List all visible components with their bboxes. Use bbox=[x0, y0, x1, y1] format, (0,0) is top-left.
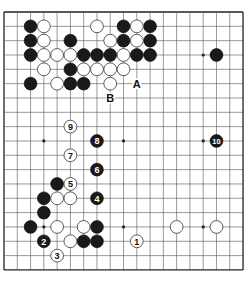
white-stone bbox=[37, 63, 50, 76]
white-stone bbox=[37, 49, 50, 62]
numbered-move-4: 4 bbox=[91, 192, 104, 205]
black-stone bbox=[24, 34, 37, 47]
numbered-move-2: 2 bbox=[37, 235, 50, 248]
white-stone bbox=[51, 77, 64, 90]
star-point bbox=[42, 139, 45, 142]
black-stone bbox=[104, 49, 117, 62]
go-board: 12345678910 AB bbox=[0, 0, 250, 281]
black-stone bbox=[51, 178, 64, 191]
position-label-A: A bbox=[133, 78, 141, 90]
white-stone bbox=[104, 34, 117, 47]
black-stone bbox=[117, 34, 130, 47]
position-label-B: B bbox=[106, 92, 114, 104]
white-stone bbox=[117, 63, 130, 76]
white-stone bbox=[210, 221, 223, 234]
white-stone bbox=[130, 20, 143, 33]
numbered-move-3: 3 bbox=[51, 249, 64, 262]
numbered-move-5: 5 bbox=[64, 178, 77, 191]
black-stone bbox=[24, 49, 37, 62]
black-stone bbox=[130, 49, 143, 62]
numbered-move-7: 7 bbox=[64, 149, 77, 162]
move-number: 6 bbox=[94, 165, 99, 175]
white-stone bbox=[37, 34, 50, 47]
numbered-move-8: 8 bbox=[91, 135, 104, 148]
white-stone bbox=[64, 235, 77, 248]
white-stone bbox=[77, 221, 90, 234]
black-stone bbox=[64, 34, 77, 47]
numbered-move-9: 9 bbox=[64, 120, 77, 133]
numbered-move-10: 10 bbox=[210, 135, 223, 148]
black-stone bbox=[91, 221, 104, 234]
move-number: 2 bbox=[41, 237, 46, 247]
star-point bbox=[42, 225, 45, 228]
black-stone bbox=[24, 77, 37, 90]
white-stone bbox=[37, 20, 50, 33]
white-stone bbox=[64, 192, 77, 205]
white-stone bbox=[51, 221, 64, 234]
black-stone bbox=[24, 20, 37, 33]
star-point bbox=[202, 225, 205, 228]
move-number: 4 bbox=[94, 194, 99, 204]
move-number: 9 bbox=[68, 122, 73, 132]
black-stone bbox=[24, 221, 37, 234]
black-stone bbox=[144, 49, 157, 62]
white-stone bbox=[104, 77, 117, 90]
move-number: 7 bbox=[68, 151, 73, 161]
black-stone bbox=[77, 77, 90, 90]
move-number: 10 bbox=[212, 137, 220, 146]
white-stone bbox=[51, 49, 64, 62]
black-stone bbox=[210, 49, 223, 62]
white-stone bbox=[130, 34, 143, 47]
move-number: 1 bbox=[134, 237, 139, 247]
white-stone bbox=[77, 63, 90, 76]
star-point bbox=[202, 139, 205, 142]
white-stone bbox=[170, 221, 183, 234]
white-stone bbox=[91, 20, 104, 33]
black-stone bbox=[144, 34, 157, 47]
star-point bbox=[122, 225, 125, 228]
black-stone bbox=[91, 49, 104, 62]
star-point bbox=[122, 139, 125, 142]
white-stone bbox=[104, 63, 117, 76]
numbered-move-6: 6 bbox=[91, 163, 104, 176]
white-stone bbox=[64, 49, 77, 62]
black-stone bbox=[64, 77, 77, 90]
move-number: 5 bbox=[68, 179, 73, 189]
star-point bbox=[202, 53, 205, 56]
black-stone bbox=[77, 49, 90, 62]
move-number: 3 bbox=[55, 251, 60, 261]
black-stone bbox=[37, 192, 50, 205]
black-stone bbox=[64, 63, 77, 76]
numbered-move-1: 1 bbox=[130, 235, 143, 248]
white-stone bbox=[91, 63, 104, 76]
black-stone bbox=[91, 235, 104, 248]
black-stone bbox=[144, 20, 157, 33]
black-stone bbox=[37, 206, 50, 219]
black-stone bbox=[117, 20, 130, 33]
white-stone bbox=[51, 192, 64, 205]
white-stone bbox=[117, 49, 130, 62]
move-number: 8 bbox=[94, 136, 99, 146]
black-stone bbox=[77, 235, 90, 248]
